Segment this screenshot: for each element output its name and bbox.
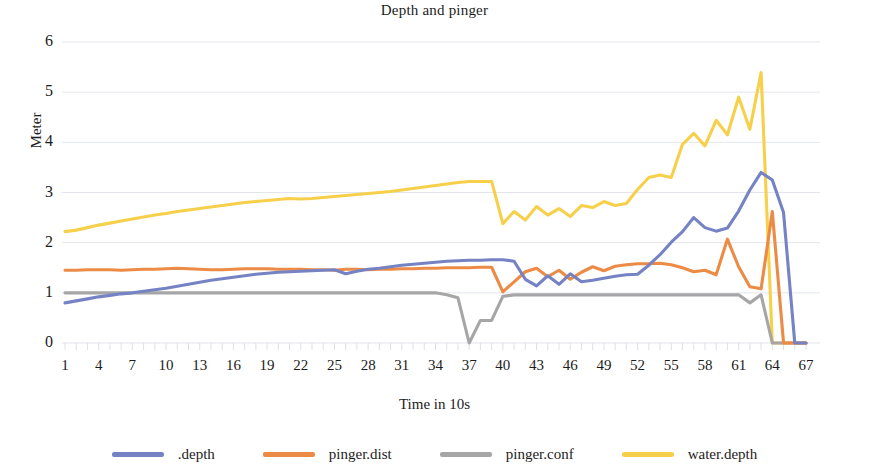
y-tick-label: 5 <box>27 83 53 99</box>
legend-swatch-icon <box>112 452 164 457</box>
legend-item-waterdepth[interactable]: water.depth <box>622 446 758 463</box>
x-tick-label: 43 <box>520 358 554 373</box>
x-tick-label: 1 <box>48 358 82 373</box>
y-tick-label: 0 <box>27 334 53 350</box>
legend-label: pinger.conf <box>506 446 574 463</box>
x-tick-label: 19 <box>250 358 284 373</box>
chart-legend: .depthpinger.distpinger.confwater.depth <box>0 440 869 468</box>
legend-item-pingerdist[interactable]: pinger.dist <box>263 446 392 463</box>
x-tick-label: 22 <box>284 358 318 373</box>
legend-swatch-icon <box>263 452 315 457</box>
x-tick-label: 28 <box>351 358 385 373</box>
x-tick-label: 25 <box>317 358 351 373</box>
x-tick-label: 67 <box>789 358 823 373</box>
x-tick-label: 16 <box>216 358 250 373</box>
legend-swatch-icon <box>622 452 674 457</box>
x-tick-label: 58 <box>688 358 722 373</box>
y-tick-label: 1 <box>27 284 53 300</box>
y-tick-label: 2 <box>27 234 53 250</box>
legend-item-pingerconf[interactable]: pinger.conf <box>440 446 574 463</box>
x-tick-label: 40 <box>486 358 520 373</box>
series-line-pingerconf <box>65 293 806 343</box>
x-tick-label: 49 <box>587 358 621 373</box>
x-tick-label: 55 <box>654 358 688 373</box>
x-tick-label: 10 <box>149 358 183 373</box>
x-tick-label: 37 <box>452 358 486 373</box>
x-axis-tickmarks <box>65 343 806 350</box>
x-axis-title: Time in 10s <box>0 396 869 413</box>
legend-item-depth[interactable]: .depth <box>112 446 215 463</box>
legend-label: .depth <box>178 446 215 463</box>
x-tick-label: 52 <box>621 358 655 373</box>
x-tick-label: 31 <box>385 358 419 373</box>
x-tick-label: 7 <box>115 358 149 373</box>
series-line-depth <box>65 172 806 343</box>
y-tick-label: 4 <box>27 133 53 149</box>
y-tick-label: 3 <box>27 184 53 200</box>
x-tick-label: 64 <box>755 358 789 373</box>
gridlines <box>62 42 820 343</box>
y-tick-label: 6 <box>27 33 53 49</box>
legend-label: pinger.dist <box>329 446 392 463</box>
chart-container: Depth and pinger Meter 6543210 147101316… <box>0 0 869 470</box>
x-tick-label: 4 <box>82 358 116 373</box>
legend-label: water.depth <box>688 446 758 463</box>
legend-swatch-icon <box>440 452 492 457</box>
series-line-waterdepth <box>65 73 806 343</box>
x-tick-label: 34 <box>419 358 453 373</box>
x-tick-label: 61 <box>722 358 756 373</box>
series-line-pingerdist <box>65 212 806 343</box>
x-tick-label: 13 <box>183 358 217 373</box>
x-tick-label: 46 <box>553 358 587 373</box>
